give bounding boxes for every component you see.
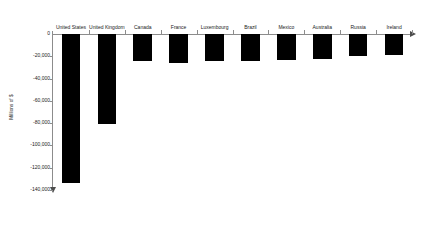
bar: [133, 34, 152, 61]
category-labels: United StatesUnited KingdomCanadaFranceL…: [53, 6, 412, 32]
x-axis-tick-mark: [125, 30, 126, 34]
x-axis-tick-mark: [340, 30, 341, 34]
bar: [169, 34, 188, 63]
category-label: Australia: [304, 24, 340, 30]
y-axis-tick-label: 0: [2, 31, 50, 36]
category-label: Luxembourg: [197, 24, 233, 30]
bar: [349, 34, 368, 56]
bar: [205, 34, 224, 61]
y-axis-tick-mark: [50, 101, 53, 102]
x-axis-tick-mark: [376, 30, 377, 34]
category-label: Russia: [340, 24, 376, 30]
bar-chart: Millions of $ 0-20,000-40,000-60,000-80,…: [0, 0, 423, 225]
category-label: Mexico: [268, 24, 304, 30]
bar: [241, 34, 260, 61]
y-axis-tick-labels: 0-20,000-40,000-60,000-80,000-100,000-12…: [0, 0, 50, 225]
y-axis-tick-label: -100,000: [2, 142, 50, 147]
category-label: Brazil: [233, 24, 269, 30]
bar: [62, 34, 81, 183]
y-axis-tick-mark: [50, 123, 53, 124]
x-axis-tick-mark: [412, 30, 413, 34]
y-axis-tick-mark: [50, 190, 53, 191]
x-axis-tick-mark: [304, 30, 305, 34]
y-axis-tick-mark: [50, 145, 53, 146]
y-axis-tick-label: -40,000: [2, 76, 50, 81]
bar: [313, 34, 332, 59]
bar: [277, 34, 296, 60]
category-label: Ireland: [376, 24, 412, 30]
y-axis-tick-label: -60,000: [2, 98, 50, 103]
y-axis-tick-label: -80,000: [2, 120, 50, 125]
x-axis-tick-mark: [89, 30, 90, 34]
y-axis-tick-label: -20,000: [2, 53, 50, 58]
y-axis-tick-mark: [50, 79, 53, 80]
category-label: United Kingdom: [89, 24, 125, 30]
category-label: United States: [53, 24, 89, 30]
category-label: France: [161, 24, 197, 30]
y-axis-tick-label: -140,000: [2, 187, 50, 192]
plot-area: [53, 34, 412, 191]
x-axis-tick-mark: [161, 30, 162, 34]
category-label: Canada: [125, 24, 161, 30]
bar: [385, 34, 404, 55]
y-axis-tick-mark: [50, 56, 53, 57]
x-axis-tick-mark: [268, 30, 269, 34]
x-axis-tick-mark: [197, 30, 198, 34]
x-axis-tick-mark: [233, 30, 234, 34]
y-axis-tick-label: -120,000: [2, 165, 50, 170]
bar: [98, 34, 117, 124]
y-axis-tick-mark: [50, 168, 53, 169]
